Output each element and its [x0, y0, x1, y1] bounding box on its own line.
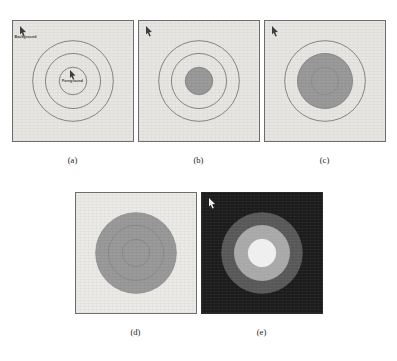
panel-row-bottom: (d) (e)	[0, 192, 397, 337]
panel-e	[201, 192, 323, 314]
panel-caption-e: (e)	[257, 328, 266, 337]
target-graphic-e	[202, 193, 322, 313]
background-label: Background	[15, 35, 37, 39]
figure-cell-c: (c)	[264, 20, 386, 165]
arrow-pointer-icon	[271, 26, 280, 37]
panel-d	[75, 192, 197, 314]
foreground-label: Foreground	[62, 79, 83, 83]
panel-caption-a: (a)	[68, 156, 77, 165]
panel-c	[264, 20, 386, 142]
figure-panels: Background Foreground (a) (b)	[0, 0, 397, 361]
figure-cell-e: (e)	[201, 192, 323, 337]
figure-cell-d: (d)	[75, 192, 197, 337]
arrow-pointer-icon	[208, 198, 217, 209]
panel-caption-b: (b)	[194, 156, 204, 165]
panel-b	[138, 20, 260, 142]
target-graphic-c	[265, 21, 385, 141]
panel-a: Background Foreground	[12, 20, 134, 142]
figure-cell-b: (b)	[138, 20, 260, 165]
target-graphic-b	[139, 21, 259, 141]
arrow-pointer-icon	[145, 26, 154, 37]
panel-row-top: Background Foreground (a) (b)	[0, 20, 397, 165]
figure-cell-a: Background Foreground (a)	[12, 20, 134, 165]
target-graphic-d	[76, 193, 196, 313]
panel-caption-d: (d)	[131, 328, 141, 337]
panel-caption-c: (c)	[320, 156, 329, 165]
